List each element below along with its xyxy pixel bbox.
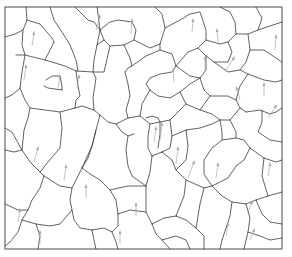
arrow-icon: [119, 230, 122, 244]
arrow-icon: [216, 162, 219, 178]
arrow-icon: [160, 122, 163, 140]
arrow-icon: [226, 222, 229, 236]
arrow-icon: [32, 31, 35, 46]
arrow-icon: [275, 34, 278, 50]
arrow-icon: [263, 82, 266, 96]
arrow-icon: [268, 104, 277, 118]
arrow-icon: [188, 160, 195, 178]
arrow-icon: [176, 146, 179, 164]
microstructure-diagram: [0, 0, 292, 257]
grain-map: [0, 0, 292, 257]
arrow-icon: [216, 28, 219, 42]
arrow-icon: [34, 146, 39, 162]
arrow-icon: [192, 18, 195, 32]
arrow-icon: [64, 164, 67, 180]
arrow-icon: [24, 64, 27, 80]
arrow-icon: [248, 200, 253, 212]
grain-boundaries: [5, 7, 282, 249]
arrow-icon: [131, 18, 134, 34]
arrow-icon: [135, 202, 138, 216]
arrow-icon: [154, 126, 157, 142]
diagram-frame: [5, 7, 282, 249]
orientation-arrows: [18, 14, 278, 244]
arrow-icon: [85, 184, 88, 198]
arrow-icon: [172, 68, 175, 82]
arrow-icon: [268, 162, 271, 176]
arrow-icon: [226, 56, 235, 70]
